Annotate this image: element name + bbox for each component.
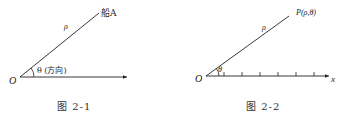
rho-label-2: ρ bbox=[262, 24, 266, 32]
caption-fig-2-1: 图 2-1 bbox=[57, 98, 91, 113]
caption-fig-2-2: 图 2-2 bbox=[246, 98, 280, 113]
origin-label-2: O bbox=[195, 74, 202, 84]
angle-arc-1 bbox=[31, 68, 34, 77]
figure-2-2-graphic bbox=[206, 16, 329, 76]
ship-label: 船A bbox=[101, 9, 117, 18]
point-label: P(ρ,θ) bbox=[296, 9, 316, 17]
axis-label-x: x bbox=[331, 75, 335, 84]
origin-label-1: O bbox=[9, 76, 16, 86]
angle-label-2: θ bbox=[218, 66, 222, 74]
rho-label-1: ρ bbox=[64, 23, 68, 31]
diagram-canvas bbox=[0, 0, 340, 119]
axis-ticks bbox=[224, 72, 314, 76]
angle-label-1: θ (方向) bbox=[37, 67, 67, 75]
